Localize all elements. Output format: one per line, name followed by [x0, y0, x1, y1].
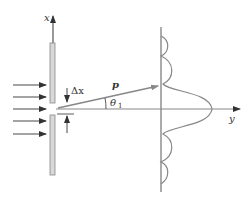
upper-slit-barrier	[50, 43, 55, 103]
intensity-pattern-curve	[161, 36, 212, 184]
momentum-label: p	[112, 79, 119, 90]
angle-label: θ	[110, 97, 116, 108]
incident-wave-arrows	[13, 85, 46, 134]
y-axis: y	[56, 109, 240, 124]
angle-theta: θ 1	[105, 97, 122, 110]
y-axis-label: y	[228, 113, 235, 124]
slit-width-label: Δx	[71, 85, 84, 96]
angle-subscript: 1	[118, 102, 122, 110]
lower-slit-barrier	[50, 115, 55, 175]
diffraction-diagram: x y Δx p θ 1	[0, 0, 251, 198]
x-axis-label: x	[44, 12, 50, 23]
